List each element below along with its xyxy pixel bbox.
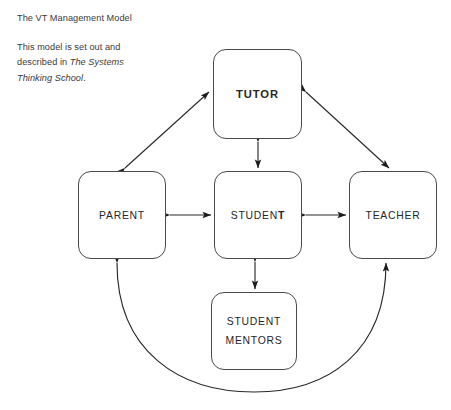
node-parent-label: PARENT	[99, 210, 145, 221]
node-tutor[interactable]: TUTOR	[213, 49, 302, 139]
node-student-mentors-label-line1: STUDENT	[227, 312, 281, 331]
node-teacher-label: TEACHER	[366, 210, 421, 221]
node-student-mentors-label-line2: MENTORS	[225, 331, 282, 350]
node-parent[interactable]: PARENT	[78, 171, 166, 259]
node-student-label-head: STUDEN	[231, 210, 278, 221]
node-tutor-label: TUTOR	[236, 88, 279, 100]
diagram-canvas: The VT Management Model This model is se…	[0, 0, 451, 410]
node-teacher[interactable]: TEACHER	[349, 171, 437, 259]
edge-tutor-teacher	[306, 92, 389, 168]
edge-parent-tutor	[125, 92, 209, 168]
node-student-label: STUDENT	[231, 210, 285, 221]
node-student-mentors[interactable]: STUDENT MENTORS	[211, 292, 297, 370]
node-student[interactable]: STUDENT	[214, 171, 302, 259]
node-student-label-tail: T	[278, 210, 285, 221]
